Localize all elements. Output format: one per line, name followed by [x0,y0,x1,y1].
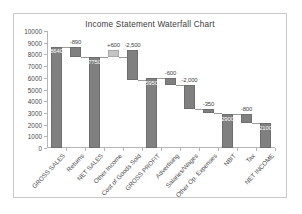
y-tick-mark [44,125,47,126]
x-axis-label: Tax [244,152,256,164]
waterfall-connector [176,85,183,86]
value-label: -600 [165,70,176,76]
category-labels-layer: GROSS SALESReturnsNET SALESOther IncomeC… [47,150,275,208]
y-axis-label: 8000 [28,51,42,58]
y-axis-label: 4000 [28,98,42,105]
bar-tax[interactable] [241,114,253,123]
y-tick-mark [44,54,47,55]
bar-other-income[interactable] [108,50,120,57]
value-label: 7750 [88,59,101,65]
waterfall-connector [233,114,240,115]
y-tick-mark [44,113,47,114]
value-label: +600 [107,42,120,48]
waterfall-connector [100,57,107,58]
value-label: 5950 [145,80,158,86]
value-label: 8640 [50,48,63,54]
chart-frame: Income Statement Waterfall Chart 0100020… [13,13,287,198]
y-axis-label: 9000 [28,39,42,46]
y-tick-mark [44,148,47,149]
value-label: 2100 [259,125,272,131]
x-axis-label: NBIT [222,152,237,167]
value-label: -800 [241,106,252,112]
chart-title: Income Statement Waterfall Chart [14,20,286,29]
y-tick-mark [44,31,47,32]
y-tick-mark [44,66,47,67]
plot-area: 0100020003000400050006000700080009000100… [47,31,275,148]
y-axis-label: 1000 [28,133,42,140]
y-axis-label: 3000 [28,109,42,116]
bar-cost-of-goods-sold[interactable] [127,50,139,79]
y-axis-label: 7000 [28,63,42,70]
bar-other-op-expenses[interactable] [203,109,215,113]
waterfall-connector [195,109,202,110]
y-axis-label: 10000 [24,28,42,35]
y-axis-label: 6000 [28,74,42,81]
bar-gross-profit[interactable] [146,78,158,148]
y-axis-label: 5000 [28,86,42,93]
value-label: 2900 [221,116,234,122]
waterfall-connector [157,78,164,79]
value-label: -890 [70,39,81,45]
y-tick-mark [44,136,47,137]
bar-gross-sales[interactable] [51,47,63,148]
bar-returns[interactable] [70,47,82,57]
bar-advertising[interactable] [165,78,177,85]
x-tick-mark [275,148,276,151]
y-tick-mark [44,90,47,91]
y-axis-label: 2000 [28,121,42,128]
x-axis-label: GROSS SALES [30,152,66,190]
y-axis-label: 0 [38,145,42,152]
y-axis-line [47,31,48,148]
waterfall-connector [62,47,69,48]
y-tick-mark [44,43,47,44]
y-tick-mark [44,78,47,79]
waterfall-connector [214,113,221,114]
waterfall-connector [119,57,126,58]
bar-salaries-wages[interactable] [184,85,196,108]
value-label: -2,500 [124,42,140,48]
bar-net-sales[interactable] [89,57,101,148]
value-label: -350 [203,101,214,107]
value-label: -2,000 [181,77,197,83]
y-tick-mark [44,101,47,102]
